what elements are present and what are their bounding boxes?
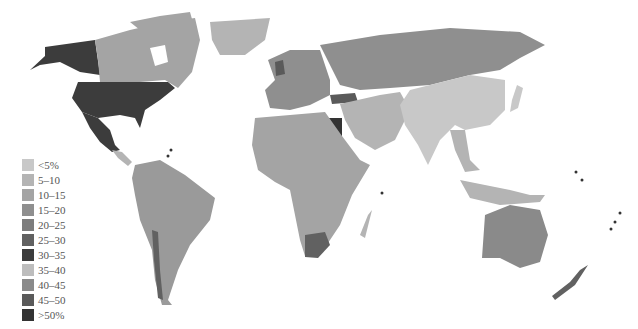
- legend-swatch: [22, 249, 34, 261]
- region-russia: [320, 28, 545, 90]
- region-madagascar: [360, 210, 372, 238]
- legend-label: 25–30: [38, 234, 66, 246]
- world-map: [0, 0, 638, 329]
- legend-swatch: [22, 159, 34, 171]
- legend-label: <5%: [38, 159, 59, 171]
- region-alaska: [30, 40, 100, 75]
- legend-swatch: [22, 234, 34, 246]
- legend-swatch: [22, 294, 34, 306]
- region-china-india: [400, 75, 505, 165]
- legend-label: 40–45: [38, 279, 66, 291]
- region-southeast-asia: [450, 130, 480, 172]
- region-europe: [265, 50, 330, 110]
- legend-item: 40–45: [22, 277, 66, 292]
- legend-label: 15–20: [38, 204, 66, 216]
- legend-label: 20–25: [38, 219, 66, 231]
- island-marker: [619, 212, 622, 215]
- island-marker: [575, 171, 578, 174]
- legend-swatch: [22, 174, 34, 186]
- legend-label: 10–15: [38, 189, 66, 201]
- legend-label: 45–50: [38, 294, 66, 306]
- island-marker: [614, 221, 617, 224]
- region-canada-arctic: [130, 12, 195, 30]
- island-marker: [581, 179, 584, 182]
- legend-item: 25–30: [22, 232, 66, 247]
- legend-item: 15–20: [22, 202, 66, 217]
- region-japan: [510, 85, 523, 112]
- legend-item: >50%: [22, 307, 66, 322]
- legend-swatch: [22, 309, 34, 321]
- island-marker: [381, 192, 384, 195]
- legend-swatch: [22, 204, 34, 216]
- legend-item: <5%: [22, 157, 66, 172]
- legend-swatch: [22, 219, 34, 231]
- legend-swatch: [22, 189, 34, 201]
- legend-item: 10–15: [22, 187, 66, 202]
- legend-swatch: [22, 279, 34, 291]
- region-central-america: [112, 150, 132, 166]
- region-mexico: [82, 112, 120, 152]
- legend-label: 30–35: [38, 249, 66, 261]
- legend-item: 45–50: [22, 292, 66, 307]
- island-marker: [170, 149, 173, 152]
- region-south-america: [132, 160, 215, 305]
- island-marker: [167, 155, 170, 158]
- legend-item: 35–40: [22, 262, 66, 277]
- region-new-zealand: [552, 265, 588, 300]
- legend: <5% 5–10 10–15 15–20 20–25 25–30 30–35 3…: [22, 157, 66, 322]
- legend-item: 5–10: [22, 172, 66, 187]
- legend-label: >50%: [38, 309, 64, 321]
- region-indonesia: [460, 180, 545, 205]
- legend-label: 5–10: [38, 174, 60, 186]
- legend-label: 35–40: [38, 264, 66, 276]
- island-marker: [610, 228, 613, 231]
- region-greenland: [210, 18, 270, 55]
- legend-swatch: [22, 264, 34, 276]
- legend-item: 30–35: [22, 247, 66, 262]
- legend-item: 20–25: [22, 217, 66, 232]
- region-south-africa: [305, 232, 330, 258]
- region-australia: [482, 205, 548, 268]
